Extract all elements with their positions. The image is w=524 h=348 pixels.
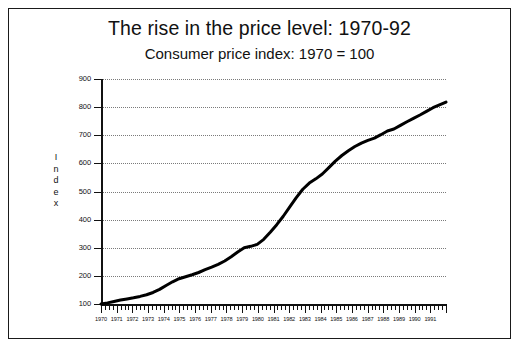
- x-axis-tick: [179, 304, 180, 313]
- x-axis-tick: [226, 304, 227, 313]
- x-axis-tick: [305, 304, 306, 313]
- y-axis-tick-label: 600: [51, 158, 91, 167]
- x-axis-tick: [164, 304, 165, 313]
- x-axis-tick: [258, 304, 259, 313]
- y-axis-title-letter: d: [49, 175, 63, 187]
- chart-title: The rise in the price level: 1970-92: [9, 17, 510, 40]
- x-axis-tick: [446, 304, 447, 313]
- x-axis-tick: [195, 304, 196, 313]
- x-axis-tick: [399, 304, 400, 313]
- x-axis-tick: [242, 304, 243, 313]
- x-axis-tick-label: 1991: [417, 316, 443, 322]
- price-index-line-series: [101, 79, 447, 305]
- x-axis-tick: [336, 304, 337, 313]
- y-axis-title-letter: x: [49, 198, 63, 210]
- y-axis-tick-label: 200: [51, 271, 91, 280]
- x-axis-tick: [415, 304, 416, 313]
- x-axis-tick: [132, 304, 133, 313]
- y-axis-tick-label: 900: [51, 74, 91, 83]
- x-axis-tick: [274, 304, 275, 313]
- x-axis-tick: [211, 304, 212, 313]
- x-axis-tick: [368, 304, 369, 313]
- y-axis-tick-label: 500: [51, 187, 91, 196]
- x-axis-tick: [383, 304, 384, 313]
- x-axis-tick: [148, 304, 149, 313]
- chart-subtitle: Consumer price index: 1970 = 100: [9, 45, 510, 62]
- x-axis-tick: [430, 304, 431, 313]
- y-axis-tick-label: 300: [51, 243, 91, 252]
- y-axis-tick-label: 800: [51, 102, 91, 111]
- chart-frame: The rise in the price level: 1970-92 Con…: [8, 8, 511, 339]
- x-axis-tick: [117, 304, 118, 313]
- y-axis-tick-label: 700: [51, 130, 91, 139]
- x-axis-tick: [289, 304, 290, 313]
- y-axis-tick-label: 100: [51, 299, 91, 308]
- y-axis-tick-label: 400: [51, 215, 91, 224]
- x-axis-tick: [352, 304, 353, 313]
- x-axis-tick: [321, 304, 322, 313]
